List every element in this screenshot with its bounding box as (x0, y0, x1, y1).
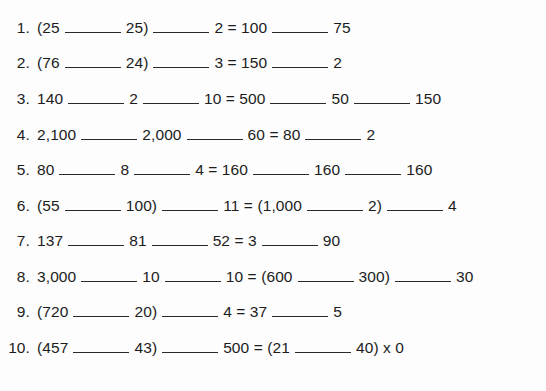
expression-text: 25) (126, 19, 149, 37)
problem-number: 6. (0, 197, 37, 215)
problem-number: 4. (0, 126, 37, 144)
expression-text: 8 (120, 161, 129, 179)
answer-blank[interactable] (270, 88, 326, 104)
problem-row: 2.(7624)3 = 1502 (0, 53, 546, 89)
expression-text: 80 (37, 161, 54, 179)
expression-text: 4 = 160 (195, 161, 248, 179)
expression-text: 10 (142, 268, 159, 286)
answer-blank[interactable] (73, 302, 129, 318)
expression-text: 150 (415, 90, 441, 108)
problem-row: 1.(2525)2 = 10075 (0, 17, 546, 53)
answer-blank[interactable] (162, 195, 218, 211)
problem-expression: 2,1002,00060 = 802 (37, 124, 546, 144)
answer-blank[interactable] (162, 337, 218, 353)
answer-blank[interactable] (307, 195, 363, 211)
answer-blank[interactable] (73, 337, 129, 353)
expression-text: 81 (129, 232, 146, 250)
expression-text: (55 (37, 197, 60, 215)
expression-text: 11 = (1,000 (223, 197, 302, 215)
expression-text: 4 (448, 197, 457, 215)
answer-blank[interactable] (253, 159, 309, 175)
answer-blank[interactable] (272, 53, 328, 69)
expression-text: 30 (456, 268, 473, 286)
expression-text: 137 (37, 232, 63, 250)
answer-blank[interactable] (68, 88, 124, 104)
answer-blank[interactable] (152, 231, 208, 247)
problem-number: 5. (0, 161, 37, 179)
expression-text: 140 (37, 90, 63, 108)
problem-expression: (45743)500 = (2140) x 0 (37, 337, 546, 357)
answer-blank[interactable] (272, 17, 328, 33)
expression-text: (457 (37, 339, 68, 357)
problem-expression: (72020)4 = 375 (37, 302, 546, 322)
expression-text: (720 (37, 303, 68, 321)
expression-text: 160 (314, 161, 340, 179)
answer-blank[interactable] (65, 53, 121, 69)
problem-expression: (55100)11 = (1,0002)4 (37, 195, 546, 215)
answer-blank[interactable] (134, 159, 190, 175)
expression-text: 500 = (21 (223, 339, 290, 357)
problem-number: 1. (0, 19, 37, 37)
answer-blank[interactable] (395, 266, 451, 282)
expression-text: 160 (406, 161, 432, 179)
expression-text: 3 = 150 (214, 54, 267, 72)
problem-expression: 8084 = 160160160 (37, 159, 546, 179)
problem-number: 8. (0, 268, 37, 286)
problem-list: 1.(2525)2 = 100752.(7624)3 = 15023.14021… (0, 17, 546, 373)
answer-blank[interactable] (387, 195, 443, 211)
answer-blank[interactable] (81, 124, 137, 140)
answer-blank[interactable] (68, 231, 124, 247)
expression-text: 90 (323, 232, 340, 250)
expression-text: 2,000 (142, 126, 181, 144)
expression-text: 20) (134, 303, 157, 321)
answer-blank[interactable] (165, 266, 221, 282)
expression-text: 43) (134, 339, 157, 357)
problem-row: 8.3,0001010 = (600300)30 (0, 266, 546, 302)
answer-blank[interactable] (65, 17, 121, 33)
problem-row: 6.(55100)11 = (1,0002)4 (0, 195, 546, 231)
expression-text: 2 (333, 54, 342, 72)
expression-text: (76 (37, 54, 60, 72)
expression-text: 2 = 100 (214, 19, 267, 37)
expression-text: 40) x 0 (356, 339, 404, 357)
problem-number: 9. (0, 303, 37, 321)
expression-text: 24) (126, 54, 149, 72)
worksheet-page: 1.(2525)2 = 100752.(7624)3 = 15023.14021… (0, 0, 546, 391)
expression-text: 4 = 37 (223, 303, 267, 321)
problem-expression: 1378152 = 390 (37, 231, 546, 251)
expression-text: 3,000 (37, 268, 76, 286)
expression-text: 60 = 80 (248, 126, 301, 144)
problem-expression: (7624)3 = 1502 (37, 53, 546, 73)
answer-blank[interactable] (162, 302, 218, 318)
expression-text: (25 (37, 19, 60, 37)
expression-text: 52 = 3 (213, 232, 257, 250)
answer-blank[interactable] (59, 159, 115, 175)
expression-text: 2,100 (37, 126, 76, 144)
expression-text: 2 (129, 90, 138, 108)
answer-blank[interactable] (272, 302, 328, 318)
answer-blank[interactable] (345, 159, 401, 175)
answer-blank[interactable] (153, 17, 209, 33)
answer-blank[interactable] (65, 195, 121, 211)
answer-blank[interactable] (187, 124, 243, 140)
expression-text: 75 (333, 19, 350, 37)
answer-blank[interactable] (305, 124, 361, 140)
expression-text: 2) (368, 197, 382, 215)
problem-row: 9.(72020)4 = 375 (0, 302, 546, 338)
answer-blank[interactable] (295, 337, 351, 353)
problem-row: 10.(45743)500 = (2140) x 0 (0, 337, 546, 373)
expression-text: 100) (126, 197, 157, 215)
expression-text: 2 (366, 126, 375, 144)
expression-text: 50 (331, 90, 348, 108)
problem-row: 3.140210 = 50050150 (0, 88, 546, 124)
answer-blank[interactable] (81, 266, 137, 282)
answer-blank[interactable] (143, 88, 199, 104)
answer-blank[interactable] (262, 231, 318, 247)
answer-blank[interactable] (298, 266, 354, 282)
problem-expression: (2525)2 = 10075 (37, 17, 546, 37)
answer-blank[interactable] (354, 88, 410, 104)
answer-blank[interactable] (153, 53, 209, 69)
problem-expression: 140210 = 50050150 (37, 88, 546, 108)
expression-text: 5 (333, 303, 342, 321)
problem-row: 5.8084 = 160160160 (0, 159, 546, 195)
